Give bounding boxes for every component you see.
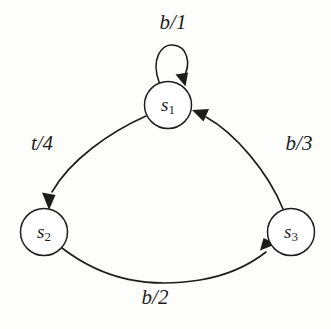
state-label-s1-sub: 1: [169, 102, 175, 117]
transition-label-s2-s3: b/2: [142, 285, 169, 310]
transition-s1-to-s2: [42, 116, 146, 210]
edge-path-s3-s1: [206, 117, 283, 209]
edge-path-s2-s3: [62, 248, 266, 283]
edge-path-s1-s2: [52, 116, 146, 192]
state-label-s3-sub: 3: [292, 229, 298, 244]
transition-s1-to-s1: [156, 45, 188, 87]
state-label-s1: s1: [161, 94, 175, 119]
state-label-s2: s2: [37, 221, 51, 246]
state-diagram: s1 s2 s3 b/1 t/4 b/2 b/3: [0, 0, 331, 329]
state-label-s1-base: s: [161, 94, 169, 115]
state-label-s2-sub: 2: [45, 229, 51, 244]
transition-s2-to-s3: [62, 238, 277, 283]
transition-s3-to-s1: [192, 109, 283, 209]
transition-label-s1-s1: b/1: [160, 10, 187, 35]
state-label-s3: s3: [284, 221, 298, 246]
arrow-head-s1-s2: [42, 193, 56, 211]
transition-label-s3-s1: b/3: [286, 131, 313, 156]
state-label-s2-base: s: [37, 221, 45, 242]
diagram-canvas: [0, 0, 331, 329]
state-label-s3-base: s: [284, 221, 292, 242]
transition-label-s1-s2: t/4: [31, 131, 53, 156]
arrow-head-s3-s1: [192, 109, 209, 122]
